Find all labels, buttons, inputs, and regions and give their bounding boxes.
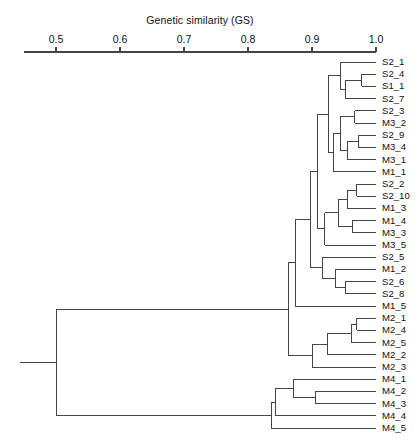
leaf-label: M1_4: [382, 216, 406, 226]
leaf-label: M3_4: [382, 142, 406, 152]
leaf-label: M2_4: [382, 325, 406, 335]
leaf-label: S2_1: [382, 57, 404, 67]
dendrogram-figure: Genetic similarity (GS) 0.50.60.70.80.91…: [0, 0, 419, 444]
leaf-label: M3_1: [382, 155, 406, 165]
leaf-label: M2_2: [382, 350, 406, 360]
leaf-label: M2_5: [382, 338, 406, 348]
leaf-label: M3_2: [382, 118, 406, 128]
leaf-label: S2_9: [382, 130, 404, 140]
leaf-label: M4_4: [382, 411, 406, 421]
leaf-label: S2_8: [382, 289, 404, 299]
leaf-label: M4_2: [382, 386, 406, 396]
leaf-label: M3_3: [382, 228, 406, 238]
leaf-label: M1_5: [382, 301, 406, 311]
leaf-label: M1_1: [382, 167, 406, 177]
leaf-label: S2_2: [382, 179, 404, 189]
leaf-label: S2_7: [382, 94, 404, 104]
leaf-label: S2_5: [382, 252, 404, 262]
leaf-label: S2_4: [382, 69, 404, 79]
leaf-label: M4_5: [382, 423, 406, 433]
leaf-label: M4_1: [382, 374, 406, 384]
leaf-label: S1_1: [382, 81, 404, 91]
leaf-label: S2_10: [382, 191, 410, 201]
leaf-label: S2_3: [382, 106, 404, 116]
leaf-label: M2_1: [382, 313, 406, 323]
leaf-label: M1_2: [382, 264, 406, 274]
leaf-label: M4_3: [382, 399, 406, 409]
leaf-label: M3_5: [382, 240, 406, 250]
dendrogram-plot: [0, 0, 419, 444]
leaf-label: M1_3: [382, 203, 406, 213]
leaf-label: M2_3: [382, 362, 406, 372]
leaf-label: S2_6: [382, 277, 404, 287]
